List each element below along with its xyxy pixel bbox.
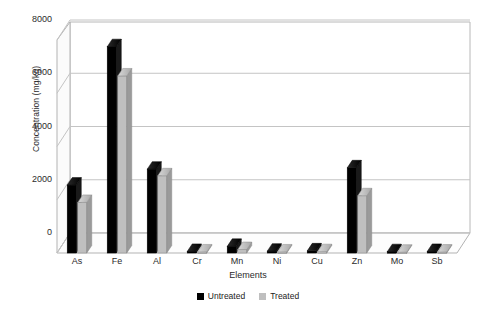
x-axis-tick-label-cu: Cu — [299, 256, 335, 266]
legend-label-untreated: Untreated — [208, 291, 245, 301]
y-axis-tick-label: 0 — [18, 227, 52, 237]
x-axis-tick-label-sb: Sb — [419, 256, 455, 266]
bar-al-treated — [158, 168, 172, 253]
y-axis-tick-label: 4000 — [18, 121, 52, 131]
bar-zn-treated — [358, 188, 372, 253]
x-axis-title: Elements — [0, 270, 496, 280]
x-axis-tick-label-al: Al — [139, 256, 175, 266]
chart-legend: Untreated Treated — [0, 291, 496, 301]
legend-item-untreated: Untreated — [197, 291, 245, 301]
y-axis-tick-label: 8000 — [18, 14, 52, 24]
x-axis-tick-label-as: As — [59, 256, 95, 266]
bar-chart: Concentration (mg/kg) 02000400060008000 … — [0, 0, 496, 316]
gray-square-swatch-icon — [259, 293, 266, 300]
black-square-swatch-icon — [197, 293, 204, 300]
x-axis-tick-label-cr: Cr — [179, 256, 215, 266]
bar-fe-treated — [118, 68, 132, 253]
x-axis-tick-label-mo: Mo — [379, 256, 415, 266]
legend-item-treated: Treated — [259, 291, 299, 301]
y-axis-tick-label: 6000 — [18, 67, 52, 77]
x-axis-tick-label-zn: Zn — [339, 256, 375, 266]
x-axis-tick-label-ni: Ni — [259, 256, 295, 266]
y-axis-tick-label: 2000 — [18, 174, 52, 184]
legend-label-treated: Treated — [270, 291, 299, 301]
x-axis-tick-label-mn: Mn — [219, 256, 255, 266]
plot-area — [0, 0, 496, 316]
bar-as-treated — [78, 195, 92, 253]
x-axis-tick-label-fe: Fe — [99, 256, 135, 266]
